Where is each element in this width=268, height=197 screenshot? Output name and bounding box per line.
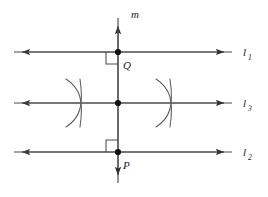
- point-center-dot: [115, 100, 121, 106]
- label-line-m: m: [131, 8, 139, 20]
- label-line-l2-base: l: [243, 146, 246, 158]
- label-line-l3: l 3: [243, 97, 252, 113]
- geometry-canvas: m Q P l 1 l 3 l 2: [0, 0, 268, 197]
- label-line-l1-base: l: [243, 46, 246, 58]
- point-q-dot: [115, 49, 121, 55]
- label-line-l3-subscript: 3: [247, 104, 252, 113]
- point-p-dot: [115, 149, 121, 155]
- geometry-diagram: m Q P l 1 l 3 l 2: [0, 0, 268, 197]
- label-line-l3-base: l: [243, 97, 246, 109]
- label-point-p: P: [122, 159, 130, 171]
- label-line-l2-subscript: 2: [248, 153, 252, 162]
- label-line-l1-subscript: 1: [248, 53, 252, 62]
- label-line-l2: l 2: [243, 146, 252, 162]
- label-point-q: Q: [123, 59, 131, 71]
- label-line-l1: l 1: [243, 46, 252, 62]
